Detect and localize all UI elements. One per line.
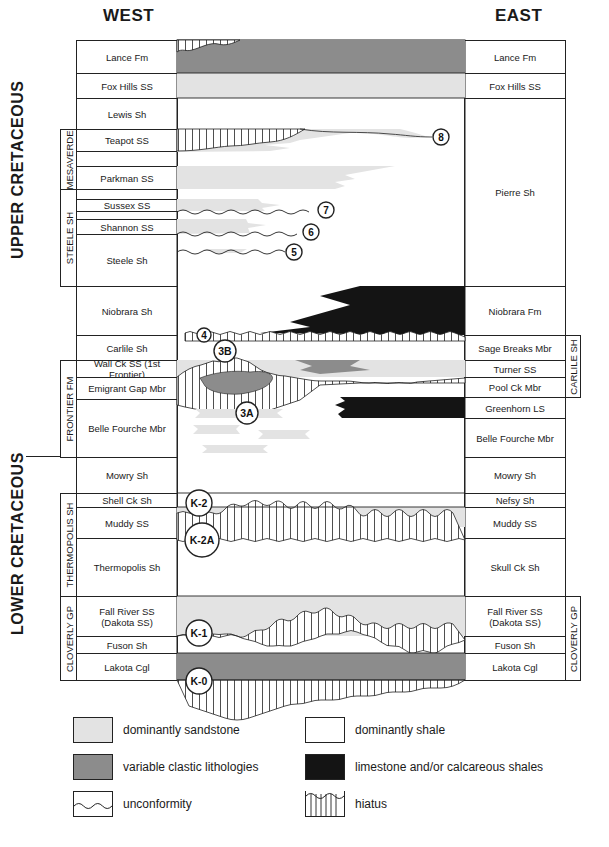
svg-text:K-1: K-1 [191,627,208,639]
svg-text:4: 4 [201,330,207,341]
belle-fourche-sandstone-lens-4 [202,445,268,453]
svg-text:3B: 3B [218,345,232,357]
sussex-sandstone-tongue [177,199,280,211]
svg-text:5: 5 [291,247,297,258]
marker-8: 8 [433,129,449,145]
marker-3b: 3B [214,340,236,362]
svg-text:K-0: K-0 [191,675,208,687]
legend-label: dominantly sandstone [123,723,240,737]
legend-item-sandstone: dominantly sandstone [73,717,240,743]
legend-label: variable clastic lithologies [123,760,258,774]
svg-text:K-2: K-2 [191,497,208,509]
legend-swatch-hiatus-icon [305,791,345,817]
legend-label: dominantly shale [355,723,445,737]
marker-7: 7 [318,202,334,218]
svg-text:K-2A: K-2A [190,534,215,546]
marker-k-1: K-1 [186,620,212,646]
marker-k-2: K-2 [186,490,212,516]
legend-item-hiatus: hiatus [305,791,387,817]
belle-fourche-sandstone-lens-2 [193,425,240,434]
svg-text:7: 7 [323,205,329,216]
svg-text:6: 6 [308,227,314,238]
belle-fourche-sandstone-lens-3 [258,430,310,439]
legend-swatch-sandstone-icon [73,717,113,743]
parkman-sandstone-tongue [177,166,395,189]
legend-label: limestone and/or calcareous shales [355,760,543,774]
marker-4: 4 [197,328,211,342]
legend-item-unconformity: unconformity [73,791,192,817]
shannon-sandstone-tongue [177,219,266,234]
k0-hiatus [177,680,465,720]
legend-swatch-variable-clastic-icon [73,754,113,780]
marker-3a: 3A [236,402,258,424]
legend-swatch-unconformity-icon [73,791,113,817]
legend-label: hiatus [355,797,387,811]
niobrara-limestone-wedge [260,286,465,335]
fox-hills-sandstone-band [177,73,465,98]
marker-k-2a: K-2A [185,523,219,557]
legend-swatch-limestone-icon [305,754,345,780]
legend-label: unconformity [123,797,192,811]
lakota-variable-clastic-band [177,653,465,680]
svg-text:8: 8 [438,132,444,143]
marker-k-0: K-0 [186,668,212,694]
legend-swatch-shale-icon [305,717,345,743]
lance-variable-clastic-band [177,40,465,73]
svg-text:3A: 3A [240,407,254,419]
greenhorn-limestone-band [335,397,465,418]
legend-item-shale: dominantly shale [305,717,445,743]
legend-item-variable-clastic: variable clastic lithologies [73,754,258,780]
legend-item-limestone: limestone and/or calcareous shales [305,754,543,780]
marker-6: 6 [303,224,319,240]
marker-5: 5 [286,244,302,260]
